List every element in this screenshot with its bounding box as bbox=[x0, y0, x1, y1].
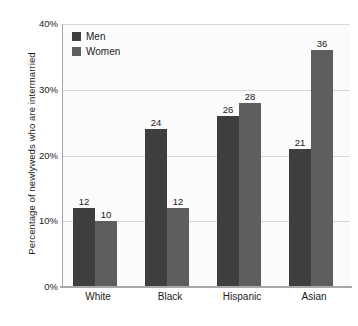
bar-value-label: 12 bbox=[173, 196, 184, 207]
bar-asian-women[interactable] bbox=[311, 50, 333, 287]
bars-layer: 1210241226282136 bbox=[63, 24, 350, 287]
y-tick-label: 10% bbox=[24, 216, 58, 226]
legend-item-women[interactable]: Women bbox=[72, 44, 120, 59]
bar-group: 2412 bbox=[145, 24, 189, 287]
legend-item-men[interactable]: Men bbox=[72, 29, 120, 44]
legend-swatch-men bbox=[72, 32, 81, 41]
bar-white-women[interactable] bbox=[95, 221, 117, 287]
bar-value-label: 26 bbox=[223, 104, 234, 115]
bar-black-men[interactable] bbox=[145, 129, 167, 287]
legend-label: Men bbox=[86, 31, 105, 42]
bar-hispanic-men[interactable] bbox=[217, 116, 239, 287]
y-tick-label: 40% bbox=[24, 19, 58, 29]
legend-label: Women bbox=[86, 46, 120, 57]
x-axis-line bbox=[60, 286, 352, 288]
x-tick-label-hispanic: Hispanic bbox=[206, 291, 278, 302]
bar-value-label: 21 bbox=[295, 137, 306, 148]
bar-group: 2136 bbox=[289, 24, 333, 287]
y-axis-tick-labels: 0%10%20%30%40% bbox=[22, 0, 58, 326]
bar-chart: Percentage of newlyweds who are intermar… bbox=[0, 0, 358, 326]
bar-value-label: 12 bbox=[79, 196, 90, 207]
bar-value-label: 28 bbox=[245, 91, 256, 102]
bar-value-label: 36 bbox=[317, 38, 328, 49]
chart-legend: MenWomen bbox=[72, 29, 120, 59]
bar-group: 1210 bbox=[73, 24, 117, 287]
plot-area: 1210241226282136 bbox=[62, 24, 350, 287]
legend-swatch-women bbox=[72, 47, 81, 56]
x-tick-label-white: White bbox=[62, 291, 134, 302]
bar-value-label: 24 bbox=[151, 117, 162, 128]
bar-value-label: 10 bbox=[101, 209, 112, 220]
x-tick-label-asian: Asian bbox=[278, 291, 350, 302]
y-tick-label: 30% bbox=[24, 85, 58, 95]
bar-black-women[interactable] bbox=[167, 208, 189, 287]
x-tick-label-black: Black bbox=[134, 291, 206, 302]
y-tick-label: 20% bbox=[24, 151, 58, 161]
x-axis-tick-labels: WhiteBlackHispanicAsian bbox=[62, 291, 350, 311]
bar-group: 2628 bbox=[217, 24, 261, 287]
y-tick-label: 0% bbox=[24, 282, 58, 292]
bar-white-men[interactable] bbox=[73, 208, 95, 287]
bar-hispanic-women[interactable] bbox=[239, 103, 261, 287]
bar-asian-men[interactable] bbox=[289, 149, 311, 287]
